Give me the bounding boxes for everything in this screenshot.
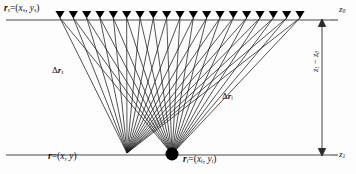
receiver-icon <box>122 11 131 19</box>
receiver-array <box>55 11 304 19</box>
depth-dimension-arrow <box>318 19 325 156</box>
source-position-label: rs=(xs, ys) <box>4 4 39 14</box>
ray-path <box>60 18 127 153</box>
receiver-icon <box>202 11 211 19</box>
ray-path <box>127 18 233 153</box>
ray-path <box>87 18 127 153</box>
ray-path <box>127 18 287 153</box>
image-point-label: ri=(xi, yi) <box>183 155 217 165</box>
receiver-icon <box>189 11 198 19</box>
receiver-icon <box>242 11 251 19</box>
field-point-label: r=(x, y) <box>48 152 77 162</box>
ray-path <box>172 18 233 154</box>
ray-path <box>100 18 172 154</box>
delta-r-source-label: Δrs <box>52 66 63 76</box>
diagram-vector-art <box>0 0 356 174</box>
receiver-icon <box>269 11 278 19</box>
delta-r-image-label: Δri <box>222 92 233 102</box>
receiver-icon <box>95 11 104 19</box>
depth-label-bottom: z1 <box>339 150 345 160</box>
ray-path <box>172 18 273 154</box>
depth-span-label: z1 − z0 <box>311 51 320 72</box>
image-point-marker <box>166 148 179 161</box>
receiver-icon <box>82 11 91 19</box>
receiver-icon <box>135 11 144 19</box>
receiver-icon <box>149 11 158 19</box>
receiver-icon <box>69 11 78 19</box>
ray-path <box>100 18 127 153</box>
receiver-icon <box>295 11 304 19</box>
receiver-icon <box>55 11 64 19</box>
ray-path <box>172 18 300 154</box>
receiver-icon <box>175 11 184 19</box>
ray-path <box>73 18 172 154</box>
receiver-icon <box>215 11 224 19</box>
diagram-canvas: rs=(xs, ys) r=(x, y) ri=(xi, yi) Δrs Δri… <box>0 0 356 174</box>
depth-label-top: z0 <box>339 5 345 15</box>
ray-path <box>87 18 172 154</box>
ray-path <box>172 18 260 154</box>
receiver-icon <box>162 11 171 19</box>
ray-path <box>127 18 300 153</box>
ray-fan-left <box>60 18 300 153</box>
ray-path <box>73 18 127 153</box>
receiver-icon <box>282 11 291 19</box>
receiver-icon <box>229 11 238 19</box>
ray-path <box>172 18 193 154</box>
receiver-icon <box>255 11 264 19</box>
ray-path <box>60 18 172 154</box>
receiver-icon <box>109 11 118 19</box>
